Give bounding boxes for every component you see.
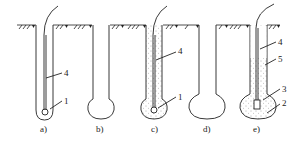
stage-b-label: b) — [96, 124, 104, 134]
callout-c-1: 1 — [178, 92, 183, 102]
stage-e — [240, 4, 280, 119]
callout-a-1: 1 — [64, 96, 69, 106]
stage-c — [141, 6, 176, 119]
callout-e-5: 5 — [278, 54, 283, 64]
callout-e-3: 3 — [282, 84, 287, 94]
callout-e-4: 4 — [278, 37, 283, 47]
borehole-diagram: 4 1 a) b) 4 1 c) d) 4 5 3 2 e) — [0, 0, 299, 143]
stage-e-label: e) — [253, 124, 260, 134]
callout-e-2: 2 — [282, 98, 287, 108]
stage-d — [189, 25, 225, 119]
callout-a-4: 4 — [64, 68, 69, 78]
stage-a-label: a) — [40, 124, 47, 134]
stage-c-label: c) — [151, 124, 158, 134]
stage-d-label: d) — [203, 124, 211, 134]
stage-b — [88, 25, 114, 119]
callout-c-4: 4 — [178, 46, 183, 56]
stage-a — [36, 6, 62, 120]
